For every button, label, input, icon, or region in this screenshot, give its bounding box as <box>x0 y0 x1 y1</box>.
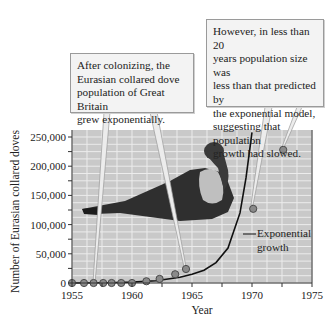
callout-line: grew exponentially. <box>77 113 187 127</box>
curve-label-line1: Exponential <box>257 227 311 241</box>
data-point <box>143 278 150 285</box>
y-axis-title: Number of Eurasian collared doves <box>9 130 21 293</box>
callout-line: However, in less than 20 <box>213 25 317 52</box>
y-tick-label: 150,000 <box>30 189 66 201</box>
x-tick-label: 1955 <box>61 289 84 301</box>
y-tick-label: 0 <box>61 277 67 289</box>
x-tick-label: 1970 <box>241 289 264 301</box>
data-point <box>182 265 189 272</box>
curve-label: Exponential growth <box>257 227 311 254</box>
curve-label-line2: growth <box>257 241 311 255</box>
callout-exponential-growth: After colonizing, the Eurasian collared … <box>70 53 194 113</box>
callout-line: Eurasian collared dove <box>77 73 187 87</box>
x-tick-label: 1965 <box>181 289 204 301</box>
data-point <box>156 275 163 282</box>
callout-line: After colonizing, the <box>77 59 187 73</box>
x-axis-title: Year <box>191 304 212 316</box>
callout-line: the exponential model, <box>213 107 317 121</box>
x-tick-label: 1960 <box>121 289 144 301</box>
callout-line: suggesting that population <box>213 120 317 147</box>
callout-line: population of Great Britain <box>77 86 187 113</box>
x-tick-label: 1975 <box>301 289 324 301</box>
data-point <box>250 205 257 212</box>
y-tick-label: 200,000 <box>30 160 66 172</box>
callout-line: less than that predicted by <box>213 79 317 106</box>
callout-growth-slowed: However, in less than 20 years populatio… <box>206 19 324 107</box>
callout-line: growth had slowed. <box>213 147 317 161</box>
data-point <box>172 271 179 278</box>
y-tick-label: 250,000 <box>30 131 66 143</box>
callout-line: years population size was <box>213 52 317 79</box>
y-tick-label: 100,000 <box>30 219 66 231</box>
y-tick-label: 50,000 <box>36 248 67 260</box>
